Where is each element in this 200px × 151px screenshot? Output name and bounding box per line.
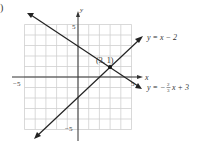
line1-label: y = x − 2 <box>146 33 177 42</box>
x-axis-label: x <box>144 73 149 82</box>
x-min-tick-label: −5 <box>13 80 21 88</box>
line-y-equals-x-minus-2 <box>37 40 139 136</box>
svg-text:x + 3: x + 3 <box>171 83 189 92</box>
y-max-tick-label: 5 <box>72 23 76 31</box>
graph-figure: ) x y −5 5 5 −5 (3, 1) y = x − 2 y = − 2… <box>0 0 200 151</box>
fraction-denominator: 3 <box>167 88 170 93</box>
intersection-label: (3, 1) <box>96 56 114 65</box>
svg-text:y = −: y = − <box>146 83 165 92</box>
line-y-equals-neg-two-thirds-x-plus-3 <box>31 15 138 86</box>
axes <box>12 15 139 141</box>
x-axis-arrow-icon <box>137 75 143 79</box>
line2-label: y = − 2 3 x + 3 <box>146 82 189 93</box>
intersection-point <box>108 65 112 69</box>
figure-label: ) <box>0 2 3 14</box>
y-min-tick-label: −5 <box>65 125 73 133</box>
y-axis-label: y <box>79 6 84 14</box>
fraction-numerator: 2 <box>167 82 170 87</box>
line2-arrow-upper-icon <box>27 13 34 18</box>
line2-arrow-lower-icon <box>135 83 142 89</box>
